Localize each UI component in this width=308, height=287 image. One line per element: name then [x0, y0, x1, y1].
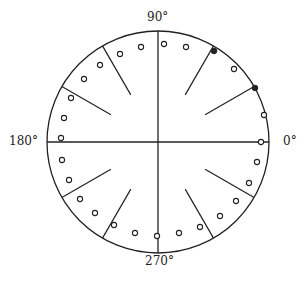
dial-canvas [0, 0, 308, 287]
radial-tick-150 [62, 87, 111, 115]
radial-tick-120 [103, 46, 131, 95]
open-marker [92, 210, 97, 215]
open-marker [233, 198, 238, 203]
open-marker [66, 177, 71, 182]
radial-tick-60 [185, 46, 213, 95]
polar-diagram: 0° 90° 180° 270° [0, 0, 308, 287]
label-90-deg: 90° [147, 10, 168, 24]
open-marker [176, 230, 181, 235]
label-270-deg: 270° [145, 254, 174, 268]
open-marker [154, 233, 159, 238]
label-180-deg: 180° [9, 134, 38, 148]
open-marker [132, 230, 137, 235]
open-marker [231, 66, 236, 71]
radial-tick-300 [185, 189, 213, 238]
open-marker [254, 159, 259, 164]
label-0-deg: 0° [283, 134, 297, 148]
open-marker [217, 213, 222, 218]
open-marker [246, 180, 251, 185]
open-marker [68, 95, 73, 100]
open-marker [111, 222, 116, 227]
radial-tick-30 [205, 87, 254, 115]
open-marker [97, 62, 102, 67]
open-marker [138, 44, 143, 49]
open-marker [161, 41, 166, 46]
open-marker [197, 224, 202, 229]
open-marker [117, 51, 122, 56]
open-marker [58, 135, 63, 140]
radial-tick-240 [103, 189, 131, 238]
open-marker [261, 112, 266, 117]
open-marker [77, 196, 82, 201]
open-marker [183, 44, 188, 49]
radial-tick-210 [62, 169, 111, 197]
open-marker [81, 76, 86, 81]
open-marker [61, 115, 66, 120]
filled-marker [252, 85, 258, 91]
filled-marker [211, 48, 217, 54]
open-marker [258, 139, 263, 144]
open-marker [59, 157, 64, 162]
